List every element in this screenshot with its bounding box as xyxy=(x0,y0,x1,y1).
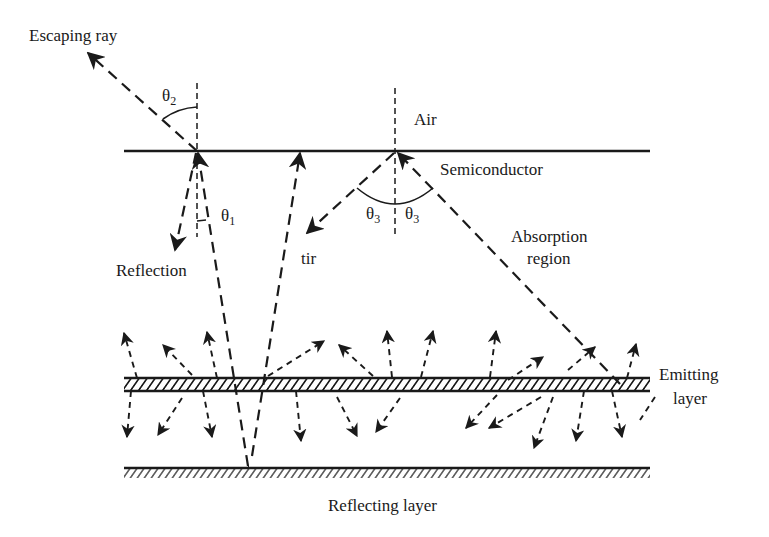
tir-incident-ray xyxy=(252,153,300,456)
semiconductor-label: Semiconductor xyxy=(440,160,543,179)
theta1-label: θ1 xyxy=(221,206,235,228)
reflection-ray xyxy=(175,153,196,250)
emitting-layer-label-line1: Emitting xyxy=(659,365,719,384)
theta2-arc xyxy=(163,107,197,119)
led-light-extraction-diagram: Escaping ray θ2 Air Semiconductor θ1 θ3 … xyxy=(0,0,769,537)
tir-label: tir xyxy=(301,249,316,268)
theta3-right-label: θ3 xyxy=(405,204,419,226)
reflecting-layer-label: Reflecting layer xyxy=(328,496,437,515)
reflecting-layer xyxy=(124,468,650,478)
theta2-label: θ2 xyxy=(162,86,176,108)
incident-ray-left xyxy=(198,153,248,466)
air-label: Air xyxy=(414,110,437,129)
absorption-region-label-line1: Absorption xyxy=(511,227,588,246)
escaping-ray xyxy=(88,53,197,151)
theta1-arc xyxy=(197,220,206,221)
theta3-left-label: θ3 xyxy=(366,204,380,226)
reflection-label: Reflection xyxy=(116,261,187,280)
tir-reflected-ray xyxy=(307,153,394,233)
emitting-layer-label-line2: layer xyxy=(673,389,707,408)
emitting-layer xyxy=(124,378,650,391)
absorption-region-label-line2: region xyxy=(527,249,571,268)
escaping-ray-label: Escaping ray xyxy=(29,26,118,45)
absorption-incident-ray xyxy=(398,153,620,384)
